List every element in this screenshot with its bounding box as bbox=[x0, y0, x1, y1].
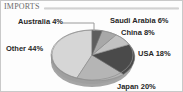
pie-label-japan: Japan 20% bbox=[117, 82, 156, 91]
pie-label-usa: USA 18% bbox=[138, 49, 171, 58]
pie-chart-plot-area: Australia 4% Saudi Arabia 6% China 8% US… bbox=[1, 12, 183, 92]
chart-screenshot: IMPORTS bbox=[0, 0, 183, 92]
page-title: IMPORTS bbox=[4, 2, 40, 12]
pie-label-saudi-arabia: Saudi Arabia 6% bbox=[110, 16, 169, 25]
pie-label-other: Other 44% bbox=[6, 44, 43, 53]
header-divider bbox=[44, 7, 179, 10]
pie-label-australia: Australia 4% bbox=[18, 17, 63, 26]
pie-label-china: China 8% bbox=[121, 28, 155, 37]
